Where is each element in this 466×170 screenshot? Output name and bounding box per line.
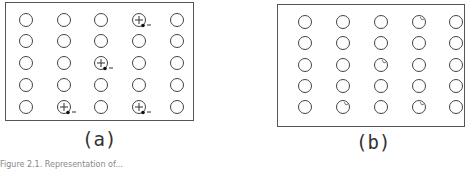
ion-site xyxy=(20,35,33,48)
ion-site xyxy=(171,57,184,70)
ion-site xyxy=(299,80,312,93)
ion-site xyxy=(95,35,108,48)
ion-site xyxy=(95,101,108,114)
ion-site xyxy=(58,57,71,70)
electron-dot xyxy=(66,111,70,115)
ion-site xyxy=(171,35,184,48)
ion-site-marked xyxy=(58,101,77,115)
ion-site xyxy=(20,79,33,92)
ion-site-marked xyxy=(413,101,426,114)
ion-site-marked xyxy=(413,16,426,29)
ion-site xyxy=(20,101,33,114)
ion-site-marked xyxy=(133,101,152,115)
ion-site xyxy=(337,16,350,29)
ion-site xyxy=(337,59,350,72)
lattice-b xyxy=(278,5,464,126)
ion-site xyxy=(95,14,108,27)
ion-site xyxy=(450,59,463,72)
ion-site-marked xyxy=(95,57,114,71)
ion-site xyxy=(299,37,312,50)
figure-caption: Figure 2.1. Representation of... xyxy=(0,160,123,169)
electron-dot xyxy=(141,111,145,115)
ion-site xyxy=(58,35,71,48)
ion-site xyxy=(375,80,388,93)
ion-site xyxy=(58,14,71,27)
ion-site xyxy=(450,37,463,50)
ion-site xyxy=(413,80,426,93)
ion-site xyxy=(413,37,426,50)
ion-site xyxy=(337,37,350,50)
ion-site xyxy=(375,37,388,50)
ion-site xyxy=(299,59,312,72)
ion-site xyxy=(450,16,463,29)
ion-site xyxy=(133,35,146,48)
ion-site xyxy=(95,79,108,92)
ion-site xyxy=(133,79,146,92)
ion-site xyxy=(413,59,426,72)
ion-site xyxy=(171,14,184,27)
panel-a-label: (a) xyxy=(82,128,116,150)
panel-a xyxy=(5,2,194,121)
ion-site-marked xyxy=(133,14,152,28)
ion-site xyxy=(299,16,312,29)
ion-site xyxy=(171,101,184,114)
panel-b-label: (b) xyxy=(356,131,390,153)
ion-site xyxy=(375,101,388,114)
ion-site xyxy=(20,14,33,27)
panel-b xyxy=(277,4,465,127)
ion-site xyxy=(299,101,312,114)
ion-site xyxy=(171,79,184,92)
ion-site xyxy=(58,79,71,92)
ion-site-marked xyxy=(375,59,388,72)
ion-site xyxy=(20,57,33,70)
ion-site xyxy=(133,57,146,70)
ion-site xyxy=(450,101,463,114)
electron-dot xyxy=(103,67,107,71)
lattice-a xyxy=(6,3,193,120)
ion-site xyxy=(450,80,463,93)
ion-site xyxy=(337,80,350,93)
ion-site-marked xyxy=(337,101,350,114)
ion-site xyxy=(375,16,388,29)
electron-dot xyxy=(141,24,145,28)
